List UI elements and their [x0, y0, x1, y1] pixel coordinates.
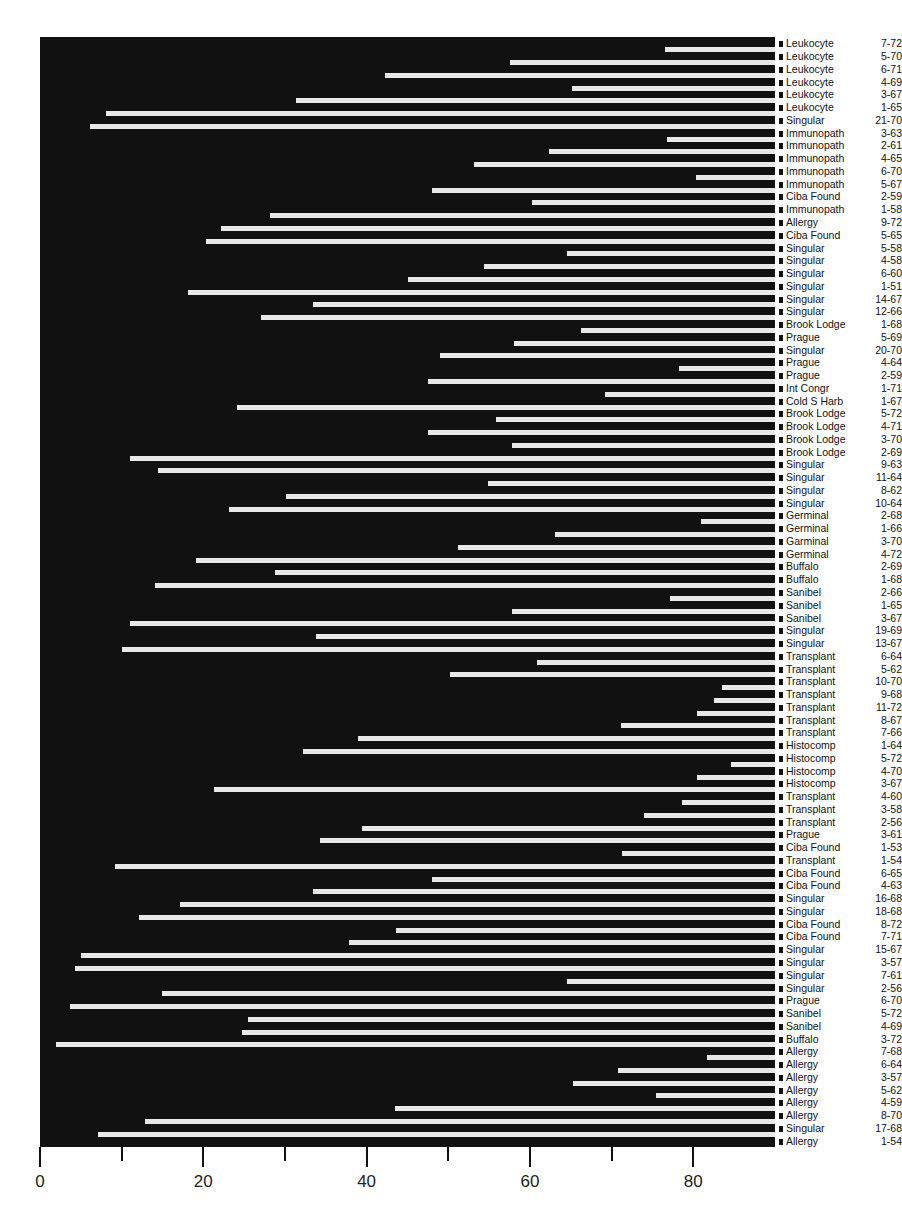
- leaf-label: Transplant7-66: [779, 726, 902, 738]
- merge-gap: [572, 86, 775, 91]
- leaf-code: 11-72: [868, 701, 902, 713]
- leaf-name: Allergy: [786, 1045, 868, 1057]
- leaf-name: Cold S Harb: [786, 395, 868, 407]
- leaf-code: 10-64: [868, 497, 902, 509]
- leaf-name: Immunopath: [786, 139, 868, 151]
- leaf-name: Singular: [786, 305, 868, 317]
- leaf-code: 7-66: [868, 726, 902, 738]
- leaf-name: Garminal: [786, 535, 868, 547]
- merge-gap: [139, 915, 775, 920]
- leaf-name: Immunopath: [786, 178, 868, 190]
- leaf-name: Singular: [786, 497, 868, 509]
- merge-gap: [313, 302, 775, 307]
- leaf-name: Transplant: [786, 701, 868, 713]
- leaf-label: Prague2-59: [779, 369, 902, 381]
- merge-gap: [214, 787, 775, 792]
- merge-gap: [408, 277, 775, 282]
- merge-gap: [679, 366, 775, 371]
- merge-gap: [665, 47, 775, 52]
- leaf-label: Transplant2-56: [779, 816, 902, 828]
- leaf-code: 5-69: [868, 331, 902, 343]
- merge-gap: [106, 111, 775, 116]
- leaf-label: Germinal4-72: [779, 548, 902, 560]
- leaf-code: 4-64: [868, 356, 902, 368]
- leaf-label: Brook Lodge5-72: [779, 407, 902, 419]
- leaf-code: 18-68: [868, 905, 902, 917]
- leaf-label: Cold S Harb1-67: [779, 395, 902, 407]
- leaf-name: Buffalo: [786, 573, 868, 585]
- leaf-name: Allergy: [786, 1096, 868, 1108]
- merge-gap: [488, 481, 775, 486]
- merge-gap: [722, 685, 775, 690]
- leaf-code: 9-72: [868, 216, 902, 228]
- merge-gap: [656, 1093, 775, 1098]
- leaf-name: Buffalo: [786, 560, 868, 572]
- leaf-name: Immunopath: [786, 127, 868, 139]
- leaf-code: 3-70: [868, 433, 902, 445]
- leaf-code: 12-66: [868, 305, 902, 317]
- leaf-code: 1-68: [868, 573, 902, 585]
- x-tick: [39, 1147, 41, 1167]
- merge-gap: [731, 762, 775, 767]
- merge-gap: [512, 443, 775, 448]
- merge-gap: [567, 979, 775, 984]
- leaf-name: Transplant: [786, 726, 868, 738]
- leaf-code: 7-68: [868, 1045, 902, 1057]
- x-tick: [366, 1147, 368, 1167]
- leaf-code: 1-58: [868, 203, 902, 215]
- merge-gap: [349, 940, 775, 945]
- leaf-label: Singular2-56: [779, 982, 902, 994]
- leaf-code: 1-71: [868, 382, 902, 394]
- leaf-name: Prague: [786, 331, 868, 343]
- leaf-code: 4-72: [868, 548, 902, 560]
- leaf-label: Allergy9-72: [779, 216, 902, 228]
- leaf-label: Ciba Found8-72: [779, 918, 902, 930]
- leaf-name: Ciba Found: [786, 879, 868, 891]
- leaf-label: Allergy3-57: [779, 1071, 902, 1083]
- leaf-code: 3-67: [868, 612, 902, 624]
- leaf-code: 1-65: [868, 599, 902, 611]
- merge-gap: [122, 647, 775, 652]
- leaf-name: Transplant: [786, 803, 868, 815]
- leaf-code: 4-69: [868, 1020, 902, 1032]
- leaf-name: Singular: [786, 969, 868, 981]
- leaf-name: Histocomp: [786, 777, 868, 789]
- leaf-name: Singular: [786, 1122, 868, 1134]
- leaf-name: Allergy: [786, 1058, 868, 1070]
- merge-gap: [385, 73, 775, 78]
- leaf-name: Sanibel: [786, 586, 868, 598]
- leaf-name: Transplant: [786, 854, 868, 866]
- leaf-label: Singular7-61: [779, 969, 902, 981]
- leaf-code: 7-61: [868, 969, 902, 981]
- leaf-name: Sanibel: [786, 599, 868, 611]
- merge-gap: [221, 226, 775, 231]
- leaf-label: Sanibel4-69: [779, 1020, 902, 1032]
- leaf-name: Leukocyte: [786, 50, 868, 62]
- merge-gap: [458, 545, 775, 550]
- leaf-name: Singular: [786, 254, 868, 266]
- leaf-label: Germinal2-68: [779, 509, 902, 521]
- leaf-name: Transplant: [786, 675, 868, 687]
- leaf-label: Singular19-69: [779, 624, 902, 636]
- merge-gap: [670, 596, 775, 601]
- leaf-code: 3-58: [868, 803, 902, 815]
- leaf-label: Brook Lodge1-68: [779, 318, 902, 330]
- merge-gap: [605, 392, 775, 397]
- leaf-label: Leukocyte7-72: [779, 37, 902, 49]
- leaf-label: Singular9-63: [779, 458, 902, 470]
- leaf-label: Transplant5-62: [779, 663, 902, 675]
- merge-gap: [313, 889, 775, 894]
- leaf-code: 21-70: [868, 114, 902, 126]
- leaf-code: 5-62: [868, 663, 902, 675]
- leaf-label: Transplant10-70: [779, 675, 902, 687]
- leaf-label: Immunopath6-70: [779, 165, 902, 177]
- leaf-code: 2-59: [868, 190, 902, 202]
- merge-gap: [714, 698, 775, 703]
- leaf-code: 15-67: [868, 943, 902, 955]
- leaf-name: Singular: [786, 242, 868, 254]
- x-tick: [447, 1147, 449, 1161]
- x-tick-label: 0: [35, 1172, 44, 1192]
- leaf-code: 13-67: [868, 637, 902, 649]
- leaf-label: Prague6-70: [779, 994, 902, 1006]
- leaf-code: 1-67: [868, 395, 902, 407]
